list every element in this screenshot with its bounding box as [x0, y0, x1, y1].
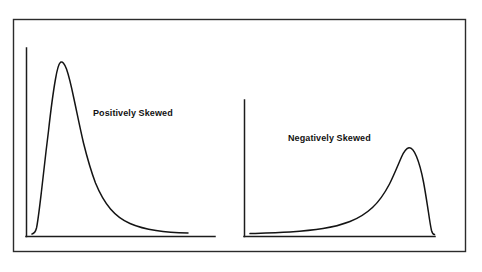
figure-background — [0, 0, 482, 272]
negatively-skewed-label: Negatively Skewed — [288, 133, 371, 143]
skewness-figure: Positively Skewed Negatively Skewed — [0, 0, 482, 272]
positively-skewed-label: Positively Skewed — [93, 108, 173, 118]
figure-root: Positively Skewed Negatively Skewed — [0, 0, 482, 272]
